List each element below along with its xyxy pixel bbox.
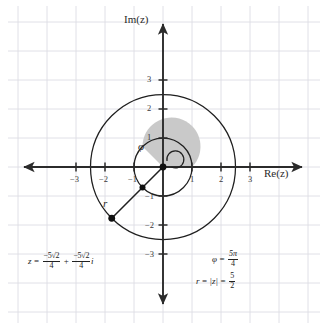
unit-circle-point <box>139 185 145 191</box>
y-axis-label: Im(z) <box>124 14 148 25</box>
y-tick-label-1: 1 <box>147 133 151 142</box>
z-formula-plus: + <box>64 257 69 266</box>
plot-canvas <box>0 0 328 329</box>
x-tick-label--1: −1 <box>128 175 137 184</box>
y-tick-label-2: 2 <box>147 104 151 113</box>
r-formula-lhs: r <box>196 277 200 286</box>
y-tick-label-3: 3 <box>147 75 151 84</box>
z-formula-term1-denominator: 4 <box>49 262 53 271</box>
z-formula: z = −5√2 4 + −5√2 4 i <box>28 252 94 270</box>
complex-plane-figure: Re(z) Im(z) −3 −2 −1 1 2 3 3 2 1 −1 −2 −… <box>0 0 328 329</box>
x-axis-label: Re(z) <box>264 168 288 179</box>
phi-formula: φ = 5π 4 <box>212 250 252 268</box>
z-formula-term2-denominator: 4 <box>79 262 83 271</box>
origin-point <box>160 164 167 171</box>
modulus-ray <box>112 167 163 218</box>
y-tick-label--2: −2 <box>145 221 154 230</box>
x-tick-label-3: 3 <box>248 175 252 184</box>
r-formula-fraction: 5 2 <box>229 272 235 290</box>
y-tick-label--3: −3 <box>145 250 154 259</box>
point-z <box>108 215 115 222</box>
phi-formula-equals: = <box>219 255 224 264</box>
x-tick-label--2: −2 <box>99 175 108 184</box>
polar-form-annotations: φ = 5π 4 r = |z| = 5 2 <box>196 250 236 290</box>
x-tick-label--3: −3 <box>70 175 79 184</box>
r-formula-denominator: 2 <box>230 282 234 291</box>
r-formula-modulus: |z| <box>210 277 218 286</box>
z-formula-term2: −5√2 4 <box>72 252 90 270</box>
phi-formula-denominator: 4 <box>231 260 235 269</box>
phi-angle-label: φ <box>138 141 144 152</box>
z-formula-lhs: z <box>28 257 32 266</box>
z-formula-equals: = <box>34 257 39 266</box>
phi-formula-lhs: φ <box>212 255 217 264</box>
z-formula-term1: −5√2 4 <box>43 252 61 270</box>
r-radius-label: r <box>103 198 107 209</box>
r-formula-equals-2: = <box>221 277 226 286</box>
r-formula: r = |z| = 5 2 <box>196 272 236 290</box>
z-formula-imaginary-unit: i <box>91 257 94 266</box>
phi-formula-fraction: 5π 4 <box>228 250 238 268</box>
x-tick-label-2: 2 <box>219 175 223 184</box>
r-formula-equals-1: = <box>202 277 207 286</box>
y-tick-label--1: −1 <box>145 192 154 201</box>
x-tick-label-1: 1 <box>190 175 194 184</box>
